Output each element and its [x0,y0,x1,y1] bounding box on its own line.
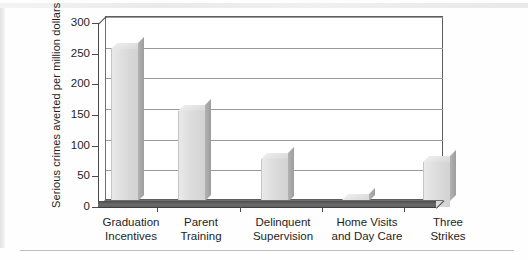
x-axis-line [98,207,436,208]
y-tick-label-300: 300 [56,16,90,28]
bar-graduation-incentives [111,49,138,207]
y-tickmark-50 [92,176,99,177]
bar-parent-training [178,111,205,207]
bar-side-face [205,99,211,201]
y-tickmark-100 [92,146,99,147]
y-tick-label-100: 100 [56,139,90,151]
x-tickmark-1 [157,207,158,212]
x-category-line-1: Three [412,216,484,230]
bar-front-face [111,49,138,207]
chart-floor-top-edge [105,200,443,201]
x-category-line-1: Parent [162,216,240,230]
x-category-line-2: Training [162,230,240,244]
y-tick-label-200: 200 [56,77,90,89]
scanned-page: Serious crimes averted per million dolla… [0,0,528,260]
y-axis-back-line [105,16,106,200]
bar-side-face [138,37,144,201]
gridline-200 [105,78,443,79]
y-tickmark-250 [92,54,99,55]
y-tickmark-300 [92,23,99,24]
x-category-label-home-visits-and-day-care: Home Visits and Day Care [322,216,412,243]
y-tick-label-50: 50 [56,169,90,181]
y-tick-label-150: 150 [56,108,90,120]
bar-side-face [288,147,294,202]
y-tick-label-250: 250 [56,47,90,59]
gridline-150 [105,109,443,110]
bar-side-face [450,150,456,201]
gridline-300 [105,17,443,18]
page-bottom-rule [20,250,514,251]
x-tickmark-2 [240,207,241,212]
x-category-line-2: Strikes [412,230,484,244]
x-category-label-three-strikes: Three Strikes [412,216,484,243]
x-category-line-2: Supervision [241,230,325,244]
y-tickmark-200 [92,84,99,85]
y-axis-tick-labels: 300 250 200 150 100 50 0 [52,0,90,260]
x-category-line-1: Home Visits [322,216,412,230]
x-category-line-2: and Day Care [322,230,412,244]
chart-floor-right-edge [436,200,445,209]
bar-chart: Serious crimes averted per million dolla… [0,0,528,260]
x-tickmark-3 [322,207,323,212]
gridline-100 [105,140,443,141]
x-category-label-delinquent-supervision: Delinquent Supervision [241,216,325,243]
y-tickmark-150 [92,115,99,116]
x-tickmark-4 [404,207,405,212]
y-tick-label-0: 0 [56,200,90,212]
axis-depth-connector-top [98,16,107,25]
bar-front-face [178,111,205,207]
gridline-250 [105,48,443,49]
x-category-line-1: Delinquent [241,216,325,230]
x-category-label-parent-training: Parent Training [162,216,240,243]
